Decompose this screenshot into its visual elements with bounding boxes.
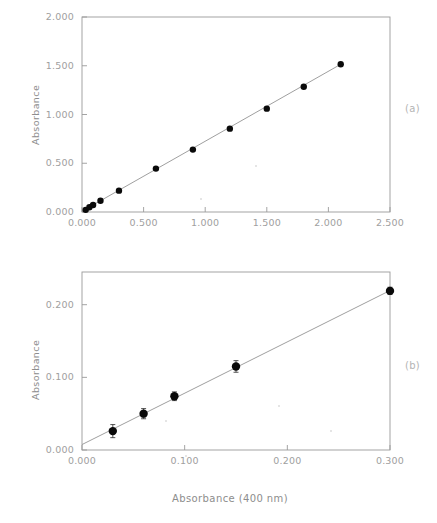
scan-speck (200, 198, 202, 200)
panel-b-label: (b) (405, 360, 420, 371)
panel-a-y-tick-label-4: 2.000 (26, 11, 74, 22)
scan-speck (330, 430, 332, 432)
panel-a-data-point-7 (227, 125, 233, 131)
panel-b: (b) Absorbance Absorbance (400 nm) (0, 250, 437, 523)
panel-a-y-tick-label-3: 1.500 (26, 60, 74, 71)
panel-a-data-point-3 (97, 198, 103, 204)
scan-speck (185, 455, 187, 457)
panel-a-data-point-4 (116, 187, 122, 193)
panel-b-x-tick-label-0: 0.000 (52, 455, 112, 466)
panel-b-data-point-0 (109, 427, 117, 435)
scan-speck (255, 165, 257, 167)
panel-a-label: (a) (405, 103, 420, 114)
panel-a-x-tick-label-0: 0.000 (52, 217, 112, 228)
panel-b-data-point-2 (170, 392, 178, 400)
panel-a-x-tick-label-3: 1.500 (237, 217, 297, 228)
panel-b-plot-area (0, 250, 437, 523)
panel-b-y-tick-label-2: 0.200 (26, 299, 74, 310)
panel-a-data-point-6 (190, 146, 196, 152)
panel-a-y-tick-label-1: 0.500 (26, 157, 74, 168)
panel-b-x-tick-label-2: 0.200 (257, 455, 317, 466)
scan-speck (165, 420, 167, 422)
panel-b-y-tick-label-0: 0.000 (26, 444, 74, 455)
panel-b-data-point-3 (232, 362, 240, 370)
panel-a-x-tick-label-1: 0.500 (114, 217, 174, 228)
panel-b-y-tick-label-1: 0.100 (26, 371, 74, 382)
panel-a-data-point-5 (153, 165, 159, 171)
figure-calibration-plots: (a) Absorbance (b) Absorbance Absorbance… (0, 0, 437, 523)
panel-b-data-point-1 (139, 409, 147, 417)
panel-a-y-tick-label-2: 1.000 (26, 109, 74, 120)
panel-a-x-tick-label-5: 2.500 (360, 217, 420, 228)
panel-a-x-tick-label-4: 2.000 (298, 217, 358, 228)
x-axis-title: Absorbance (400 nm) (110, 493, 350, 504)
panel-a-x-tick-label-2: 1.000 (175, 217, 235, 228)
panel-a-data-point-8 (264, 105, 270, 111)
panel-b-data-point-4 (386, 287, 394, 295)
panel-b-x-tick-label-3: 0.300 (360, 455, 420, 466)
panel-b-y-axis-title: Absorbance (30, 340, 41, 400)
panel-a-y-tick-label-0: 0.000 (26, 206, 74, 217)
panel-a-data-point-9 (301, 84, 307, 90)
scan-speck (278, 405, 280, 407)
panel-a-axes-frame (82, 17, 390, 212)
panel-a-data-point-10 (338, 61, 344, 67)
panel-a-data-point-2 (90, 202, 96, 208)
